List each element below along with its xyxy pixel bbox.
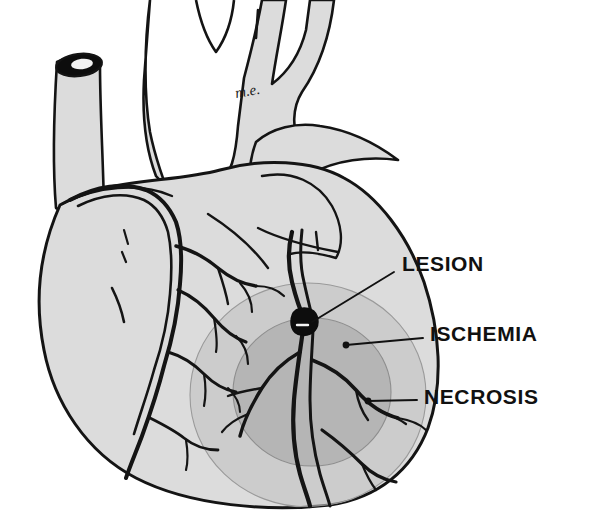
label-lesion: LESION [402,252,484,275]
label-necrosis: NECROSIS [424,385,539,408]
heart-illustration-figure: LESION ISCHEMIA NECROSIS m.e. [0,0,590,530]
label-ischemia: ISCHEMIA [430,322,537,345]
heart-diagram-canvas: LESION ISCHEMIA NECROSIS m.e. [0,0,590,530]
